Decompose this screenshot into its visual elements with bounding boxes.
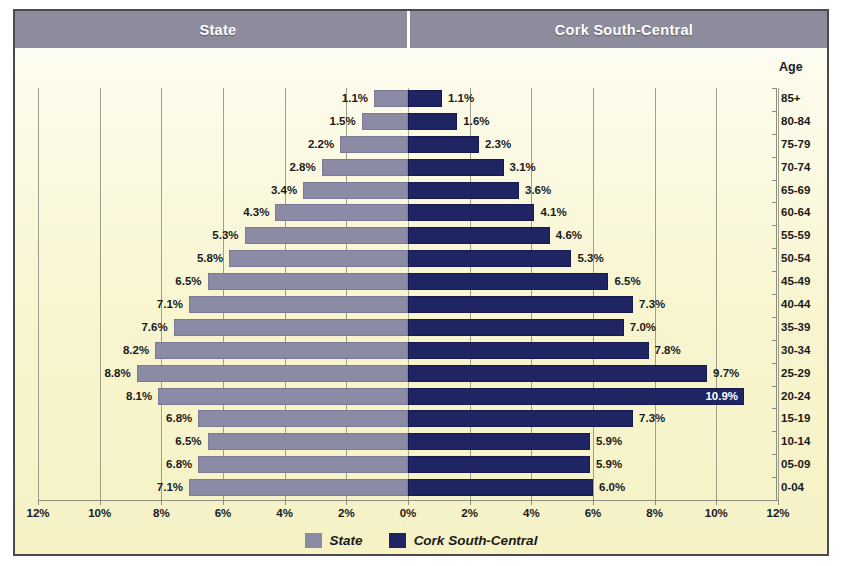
age-group-label: 70-74 [781,157,810,177]
bar-cork [408,273,608,290]
bar-cork [408,410,633,427]
header-title-right: Cork South-Central [421,11,827,48]
pyramid-row: 2.8%3.1% [38,157,778,177]
bar-value-label-cork: 2.3% [485,136,545,153]
bar-value-label-cork: 6.5% [614,273,674,290]
bar-cork [408,90,442,107]
bar-state [137,365,408,382]
bar-state [198,456,408,473]
bar-value-label-state: 3.4% [237,182,297,199]
age-group-label: 50-54 [781,248,810,268]
age-axis-tick [772,454,777,455]
age-group-label: 80-84 [781,111,810,131]
bar-value-label-cork: 7.0% [630,319,690,336]
age-axis-tick [772,271,777,272]
header-title-left: State [15,11,421,48]
legend-swatch [389,533,406,548]
legend-swatch [305,533,322,548]
bar-cork [408,296,633,313]
age-axis-tick [772,248,777,249]
bar-state [322,159,408,176]
x-axis-tick [223,500,224,505]
age-axis-tick [772,294,777,295]
x-axis-tick-label: 2% [338,507,355,519]
bar-value-label-cork: 6.0% [599,479,659,496]
bar-state [340,136,408,153]
legend-item: Cork South-Central [389,533,538,548]
bar-state [208,273,408,290]
legend-item: State [305,533,363,548]
bar-cork [408,250,571,267]
x-axis-tick [655,500,656,505]
pyramid-row: 8.2%7.8% [38,340,778,360]
x-axis-tick-label: 0% [400,507,417,519]
x-axis-tick-label: 2% [461,507,478,519]
age-axis-tick [772,363,777,364]
bar-value-label-cork: 1.6% [463,113,523,130]
age-group-label: 45-49 [781,271,810,291]
bar-value-label-state: 6.8% [132,410,192,427]
pyramid-row: 5.3%4.6% [38,225,778,245]
age-axis-tick [772,431,777,432]
bar-value-label-state: 1.1% [308,90,368,107]
x-axis-tick [470,500,471,505]
x-axis-tick [285,500,286,505]
age-axis-tick [772,408,777,409]
pyramid-row: 3.4%3.6% [38,180,778,200]
bar-cork [408,479,593,496]
bar-cork [408,456,590,473]
age-axis-tick [772,157,777,158]
x-axis-tick-label: 4% [276,507,293,519]
age-group-label: 0-04 [781,477,804,497]
bar-cork [408,319,624,336]
age-axis-tick [772,477,777,478]
bar-state [208,433,408,450]
pyramid-row: 6.5%5.9% [38,431,778,451]
age-axis-tick [772,88,777,89]
bar-value-label-cork: 3.6% [525,182,585,199]
age-axis-tick [772,180,777,181]
bar-value-label-state: 5.3% [179,227,239,244]
age-axis: Age 85+80-8475-7970-7465-6960-6455-5950-… [776,60,840,505]
bar-value-label-state: 2.2% [274,136,334,153]
population-pyramid-figure: State Cork South-Central 1.1%1.1%1.5%1.6… [0,0,842,566]
x-axis-tick [593,500,594,505]
pyramid-row: 1.1%1.1% [38,88,778,108]
bar-value-label-state: 7.1% [123,479,183,496]
age-group-label: 10-14 [781,431,810,451]
age-group-label: 55-59 [781,225,810,245]
bar-value-label-cork: 7.8% [655,342,715,359]
bar-state [275,204,408,221]
bar-value-label-state: 7.6% [108,319,168,336]
pyramid-row: 8.8%9.7% [38,363,778,383]
pyramid-row: 7.1%6.0% [38,477,778,497]
bar-value-label-cork: 3.1% [510,159,570,176]
bar-value-label-state: 8.2% [89,342,149,359]
pyramid-row: 6.8%5.9% [38,454,778,474]
x-axis-tick [161,500,162,505]
x-axis-tick [408,500,409,505]
pyramid-row: 5.8%5.3% [38,248,778,268]
bar-value-label-state: 8.8% [71,365,131,382]
age-axis-tick [772,386,777,387]
bar-cork [408,227,550,244]
bar-value-label-state: 6.5% [142,273,202,290]
header-divider [407,11,410,48]
x-axis-tick-label: 4% [523,507,540,519]
bar-value-label-cork: 5.9% [596,456,656,473]
x-axis-tick [100,500,101,505]
bar-state [362,113,408,130]
pyramid-row: 4.3%4.1% [38,202,778,222]
bar-cork [408,182,519,199]
bar-state [189,479,408,496]
age-group-label: 85+ [781,88,801,108]
age-group-label: 40-44 [781,294,810,314]
age-group-label: 20-24 [781,386,810,406]
pyramid-row: 7.1%7.3% [38,294,778,314]
age-group-label: 65-69 [781,180,810,200]
x-axis-tick-label: 10% [88,507,111,519]
age-axis-tick [772,111,777,112]
bar-value-label-state: 6.5% [142,433,202,450]
bar-state [198,410,408,427]
age-group-label: 30-34 [781,340,810,360]
